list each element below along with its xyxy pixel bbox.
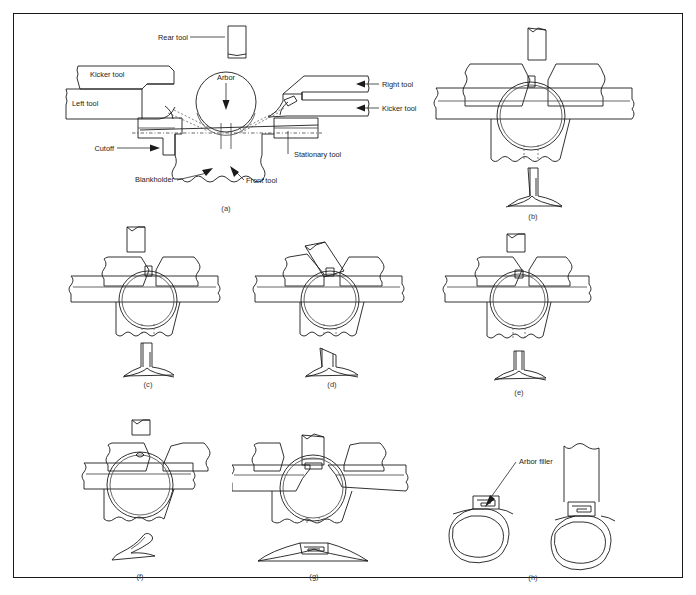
arrow-kicker-tool-right xyxy=(356,105,379,112)
strip-f xyxy=(82,463,195,489)
arbor-shape-e xyxy=(490,270,548,338)
label-left-tool: Left tool xyxy=(72,99,99,108)
panel-e: (e) xyxy=(437,226,627,401)
formed-part-left-h xyxy=(449,496,513,563)
product-profile-g xyxy=(258,543,368,561)
lower-die-e xyxy=(487,302,551,338)
product-profile-c xyxy=(123,343,174,377)
panel-a: Rear tool Kicker tool Left tool Right to… xyxy=(22,18,422,218)
panel-c: (c) xyxy=(68,226,258,391)
rear-tool-shape-e xyxy=(507,234,525,252)
product-profile-f xyxy=(112,533,155,560)
arrow-front-tool xyxy=(230,166,244,180)
right-tool-shape-d xyxy=(340,257,384,286)
arrow-arbor xyxy=(223,83,230,110)
label-cutoff: Cutoff xyxy=(94,144,115,153)
label-rear-tool: Rear tool xyxy=(158,33,188,42)
caption-f: (f) xyxy=(136,572,144,581)
lower-die-b xyxy=(491,119,570,162)
panel-d: (d) xyxy=(252,226,442,391)
figure-canvas: Rear tool Kicker tool Left tool Right to… xyxy=(0,0,696,595)
caption-a: (a) xyxy=(221,204,231,213)
panel-h: Arbor filler (h) xyxy=(437,438,667,586)
arrow-blankholder xyxy=(177,168,213,180)
right-tool-shape-e xyxy=(529,257,572,286)
caption-e: (e) xyxy=(514,388,524,397)
strip-d xyxy=(253,276,404,302)
arrow-cutoff xyxy=(117,145,160,152)
left-tool-shape-d xyxy=(283,254,324,286)
caption-b: (b) xyxy=(528,212,538,221)
rear-tool-shape-f xyxy=(132,420,150,435)
rear-tool-shape xyxy=(228,26,246,58)
label-arbor-filler: Arbor filler xyxy=(519,457,553,466)
right-tool-shape-b xyxy=(548,64,605,106)
product-profile-e xyxy=(494,351,546,380)
lower-die-d xyxy=(300,302,364,336)
strip-b xyxy=(434,88,634,119)
right-tool-shape-f xyxy=(163,443,210,471)
rear-tool-shape-b xyxy=(528,28,546,60)
panel-g: (g) xyxy=(232,413,442,585)
label-right-tool: Right tool xyxy=(382,80,414,89)
caption-c: (c) xyxy=(144,380,153,389)
label-kicker-tool-right: Kicker tool xyxy=(382,104,417,113)
lower-die-body xyxy=(172,134,274,182)
label-kicker-tool-left: Kicker tool xyxy=(90,70,125,79)
rear-tool-shape-c xyxy=(127,227,145,252)
right-tool-shape xyxy=(268,76,369,117)
right-tool-shape-g xyxy=(344,443,386,471)
label-arbor: Arbor xyxy=(217,73,236,82)
strip-c xyxy=(69,276,220,302)
left-tool-shape-b xyxy=(463,64,530,106)
product-profile-b xyxy=(506,168,562,207)
stationary-tool-shape xyxy=(274,118,318,138)
product-profile-d xyxy=(305,348,358,377)
caption-d: (d) xyxy=(327,380,337,389)
arbor-shape-b xyxy=(497,76,565,160)
label-front-tool: Front tool xyxy=(246,176,278,185)
label-blankholder: Blankholder xyxy=(135,175,175,184)
right-tool-shape-c xyxy=(156,257,200,286)
left-tool-shape-g xyxy=(252,443,284,471)
arbor-shape-f xyxy=(107,452,173,518)
lower-die-f xyxy=(104,489,174,521)
center-tool-shape-g xyxy=(302,434,324,465)
arrow-right-tool xyxy=(356,81,379,88)
caption-g: (g) xyxy=(309,572,319,581)
panel-b: (b) xyxy=(418,18,673,223)
panel-f: (f) xyxy=(68,413,258,585)
label-stationary-tool: Stationary tool xyxy=(294,150,342,159)
arbor-shape-c xyxy=(119,266,177,336)
caption-h: (h) xyxy=(528,573,538,582)
formed-part-right-h xyxy=(551,444,615,570)
strip-left-g xyxy=(232,465,310,491)
